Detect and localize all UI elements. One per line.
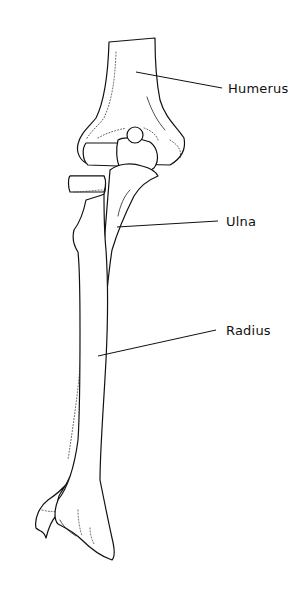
radius-bone (55, 176, 114, 560)
forearm-bones-diagram: Humerus Ulna Radius (0, 0, 297, 599)
humerus-bone (77, 38, 184, 173)
radius-label: Radius (226, 324, 271, 337)
ulna-leader-line (117, 221, 218, 227)
ulna-label: Ulna (226, 215, 256, 228)
radius-leader-line (98, 330, 216, 356)
humerus-label: Humerus (228, 82, 288, 95)
